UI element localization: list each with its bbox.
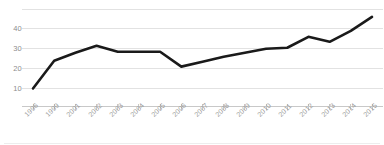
series-polyline bbox=[33, 17, 372, 89]
line-chart: 10203040 1996199920012002200320042005200… bbox=[0, 0, 384, 145]
gridlines bbox=[22, 9, 383, 89]
y-axis-tick-label: 40 bbox=[2, 25, 22, 33]
data-series-line bbox=[33, 17, 372, 89]
y-axis-tick-label: 10 bbox=[2, 85, 22, 93]
y-axis-tick-label: 30 bbox=[2, 45, 22, 53]
y-axis-tick-label: 20 bbox=[2, 65, 22, 73]
chart-plot-area bbox=[0, 0, 384, 145]
